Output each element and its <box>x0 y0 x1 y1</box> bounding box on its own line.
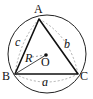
vertex-label-c: C <box>80 69 88 83</box>
circumscribed-triangle-diagram: A B C O R c b a <box>0 0 93 99</box>
vertex-label-b: B <box>2 69 10 83</box>
center-label-o: O <box>41 55 50 69</box>
radius-label: R <box>24 51 33 65</box>
side-label-c: c <box>15 35 21 49</box>
side-label-a: a <box>42 75 48 89</box>
side-label-b: b <box>64 37 70 51</box>
vertex-label-a: A <box>34 2 43 16</box>
